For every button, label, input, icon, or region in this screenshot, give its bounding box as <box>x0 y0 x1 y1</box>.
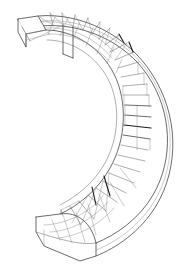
tread-line <box>125 105 151 106</box>
step-nosing <box>104 176 110 196</box>
tread-line <box>88 195 106 211</box>
spiral-staircase-wireframe <box>0 0 194 271</box>
upper-web-rib <box>107 47 114 63</box>
tread-line <box>123 135 150 139</box>
tread-line <box>125 115 151 117</box>
tread-line <box>96 188 117 202</box>
tread-line-highlight <box>124 125 151 128</box>
tread-line <box>109 173 134 183</box>
lower-web-rib <box>99 194 110 222</box>
inner-edge-lower <box>47 40 117 205</box>
lower-web-rib <box>120 168 136 188</box>
tread-line <box>118 62 139 68</box>
tread-line <box>114 164 140 172</box>
upper-web-rib <box>116 59 122 73</box>
tread-line <box>121 73 144 77</box>
upper-web-rib <box>97 36 104 54</box>
tread-line <box>123 84 147 86</box>
lower-web-rib <box>88 204 96 235</box>
riser-box-bottom <box>63 54 73 58</box>
drawing-canvas <box>0 0 194 271</box>
riser-lines-group <box>50 13 150 230</box>
tread-line <box>121 145 148 150</box>
bottom-base-group <box>36 210 96 261</box>
tread-line <box>118 155 145 161</box>
lower-web-rib <box>110 182 124 206</box>
